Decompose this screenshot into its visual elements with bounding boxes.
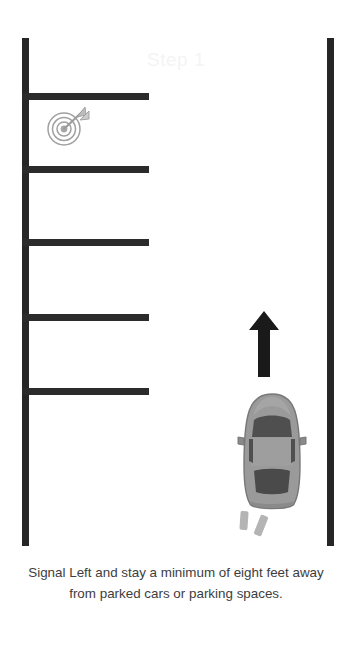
parking-stall-line — [22, 388, 149, 395]
right-curb-line — [327, 38, 334, 546]
parking-stall-line — [22, 93, 149, 100]
car-top-down-icon — [237, 393, 307, 511]
exhaust-puff — [239, 511, 248, 531]
driving-instruction-illustration: Step 1 — [0, 0, 352, 650]
up-arrow-icon — [248, 310, 280, 378]
parking-stall-line — [22, 314, 149, 321]
exhaust-puff — [253, 514, 268, 536]
caption-line-1: Signal Left and stay a minimum of eight … — [28, 565, 289, 580]
parking-stall-line — [22, 239, 149, 246]
target-bullseye-with-dart-icon — [45, 105, 91, 149]
parking-stall-line — [22, 166, 149, 173]
left-curb-line — [22, 38, 29, 546]
step-watermark-label: Step 1 — [0, 49, 352, 71]
instruction-caption: Signal Left and stay a minimum of eight … — [14, 562, 338, 604]
